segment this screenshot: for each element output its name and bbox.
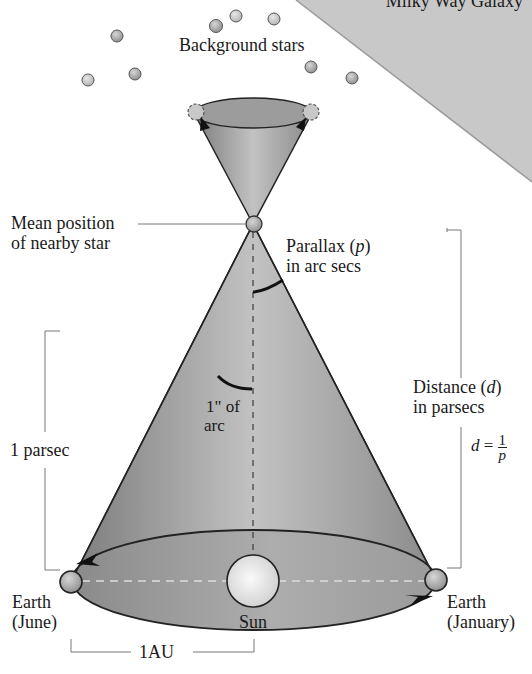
- parallax-diagram: [0, 0, 532, 674]
- one-parsec-label: 1 parsec: [10, 440, 69, 460]
- galaxy-label: Milky Way Galaxy: [386, 0, 523, 11]
- nearby-star: [246, 216, 262, 232]
- one-au-label: 1AU: [139, 642, 174, 662]
- distance-label-line1: Distance (d): [413, 377, 501, 397]
- parallax-label-line1: Parallax (p): [286, 236, 370, 256]
- sun: [227, 555, 279, 607]
- mean-position-label-line1: Mean position: [11, 213, 115, 233]
- earth-january-label-line2: (January): [447, 612, 515, 632]
- earth-june-label-line1: Earth: [12, 592, 51, 612]
- earth-january-label-line1: Earth: [447, 592, 486, 612]
- sun-label: Sun: [239, 612, 267, 632]
- earth-june-label-line2: (June): [12, 612, 57, 632]
- upper-cone: [188, 98, 319, 224]
- parallax-label-line2: in arc secs: [286, 256, 361, 276]
- earth-january: [425, 569, 447, 591]
- distance-label-line2: in parsecs: [413, 397, 484, 417]
- distance-formula: d = 1p: [471, 431, 507, 462]
- one-arcsec-label-line1: 1" of: [206, 397, 240, 417]
- earth-june: [60, 571, 82, 593]
- background-stars-label: Background stars: [179, 35, 304, 55]
- one-arcsec-label-line2: arc: [204, 416, 225, 436]
- mean-position-label-line2: of nearby star: [11, 233, 110, 253]
